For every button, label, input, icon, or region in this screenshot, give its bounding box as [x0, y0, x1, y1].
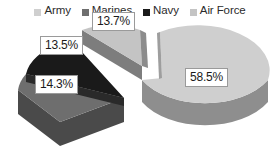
pie-chart-figure: Army Marines Navy Air Force: [0, 0, 280, 166]
legend-item-label: Air Force: [200, 5, 246, 17]
legend-item-army[interactable]: Army: [34, 5, 70, 17]
legend-item-navy[interactable]: Navy: [143, 5, 179, 17]
square-swatch-icon: [34, 9, 41, 16]
square-swatch-icon: [82, 9, 89, 16]
legend-item-label: Navy: [153, 5, 179, 17]
data-label-army: 58.5%: [185, 68, 228, 87]
data-label-air-force: 13.7%: [92, 12, 135, 31]
legend-item-label: Army: [44, 5, 70, 17]
data-label-navy: 13.5%: [40, 36, 83, 55]
data-label-marines: 14.3%: [35, 75, 78, 94]
square-swatch-icon: [190, 9, 197, 16]
square-swatch-icon: [143, 9, 150, 16]
legend-item-air-force[interactable]: Air Force: [190, 5, 246, 17]
